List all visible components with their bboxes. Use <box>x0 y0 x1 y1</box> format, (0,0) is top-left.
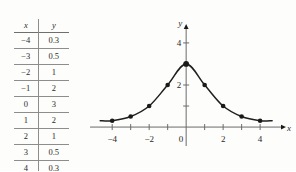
cell-y: 0.5 <box>38 49 69 65</box>
x-axis-arrowhead <box>281 125 286 130</box>
cell-x: −1 <box>14 81 38 97</box>
x-axis-tick-labels: −4−2024 <box>107 134 262 144</box>
data-point <box>128 114 133 119</box>
table-row: −3 0.5 <box>14 49 69 65</box>
data-point <box>183 61 189 67</box>
table-row: 3 0.5 <box>14 145 69 161</box>
y-axis-tick-labels: 24 <box>177 38 182 90</box>
cell-y: 3 <box>38 97 69 113</box>
table-row: −4 0.3 <box>14 33 69 49</box>
cell-x: 4 <box>14 161 38 172</box>
cell-y: 2 <box>38 81 69 97</box>
table-row: 2 1 <box>14 129 69 145</box>
x-tick-label: 0 <box>179 134 184 144</box>
x-axis-label: x <box>286 123 291 133</box>
cell-y: 1 <box>38 65 69 81</box>
data-point <box>202 83 207 88</box>
cell-x: −3 <box>14 49 38 65</box>
cell-x: −4 <box>14 33 38 49</box>
cell-x: −2 <box>14 65 38 81</box>
cell-x: 0 <box>14 97 38 113</box>
data-point <box>221 104 226 109</box>
cell-x: 3 <box>14 145 38 161</box>
column-header-x: x <box>14 19 38 33</box>
x-tick-label: 4 <box>258 134 263 144</box>
data-point <box>239 114 244 119</box>
table-row: 4 0.3 <box>14 161 69 172</box>
cell-y: 0.5 <box>38 145 69 161</box>
y-axis-arrowhead <box>184 24 189 29</box>
x-tick-label: −2 <box>144 134 154 144</box>
graph-panel: −4−2024 24 x y <box>80 16 296 156</box>
xy-value-table: x y −4 0.3 −3 0.5 −2 1 −1 <box>14 19 69 171</box>
table-row: −2 1 <box>14 65 69 81</box>
cell-y: 0.3 <box>38 33 69 49</box>
cell-y: 0.3 <box>38 161 69 172</box>
value-table-panel: x y −4 0.3 −3 0.5 −2 1 −1 <box>14 19 69 171</box>
cell-y: 2 <box>38 113 69 129</box>
y-axis-label: y <box>177 18 182 28</box>
cell-x: 2 <box>14 129 38 145</box>
data-point <box>258 118 263 123</box>
table-header: x y <box>14 19 69 33</box>
table-row: −1 2 <box>14 81 69 97</box>
cell-x: 1 <box>14 113 38 129</box>
table-body: −4 0.3 −3 0.5 −2 1 −1 2 0 3 <box>14 33 69 172</box>
coordinate-plot: −4−2024 24 x y <box>80 16 296 156</box>
x-tick-label: −4 <box>107 134 117 144</box>
y-tick-label: 4 <box>177 38 182 48</box>
data-point <box>110 118 115 123</box>
table-row: 1 2 <box>14 113 69 129</box>
cell-y: 1 <box>38 129 69 145</box>
x-tick-label: 2 <box>221 134 226 144</box>
column-header-y: y <box>38 19 69 33</box>
table-header-row: x y <box>14 19 69 33</box>
data-point <box>165 83 170 88</box>
y-tick-label: 2 <box>177 80 182 90</box>
table-row: 0 3 <box>14 97 69 113</box>
data-point <box>147 104 152 109</box>
figure-container: x y −4 0.3 −3 0.5 −2 1 −1 <box>0 0 296 171</box>
